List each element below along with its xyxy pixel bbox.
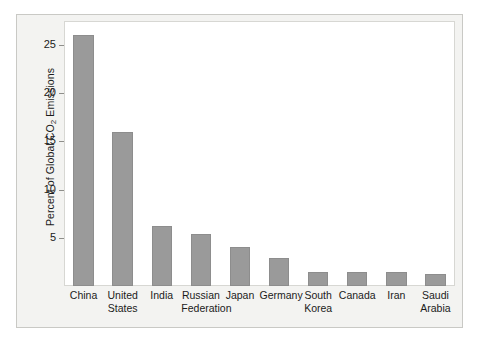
bar-chart: Percent of Global CO2 Emissions 51015202… <box>17 15 464 329</box>
y-axis-title-subscript: 2 <box>49 120 58 125</box>
x-axis-tick-label: United States <box>103 289 142 314</box>
bar <box>191 234 211 286</box>
y-axis-tick-label: 5 <box>50 231 56 243</box>
bar <box>425 274 445 286</box>
bar <box>308 272 328 286</box>
bar <box>386 272 406 286</box>
bar <box>347 272 367 286</box>
x-axis-tick-label: Russian Federation <box>181 289 220 314</box>
x-axis-tick-label: Saudi Arabia <box>416 289 455 314</box>
figure-frame: Percent of Global CO2 Emissions 51015202… <box>16 14 463 328</box>
y-axis-tick-label: 15 <box>44 134 56 146</box>
bar <box>73 35 93 286</box>
y-axis-tick-label: 20 <box>44 86 56 98</box>
x-axis-labels: ChinaUnited StatesIndiaRussian Federatio… <box>64 289 455 329</box>
bars-container <box>64 21 455 286</box>
bar <box>152 226 172 286</box>
x-axis-tick-label: Canada <box>338 289 377 302</box>
bar <box>112 132 132 286</box>
bar <box>230 247 250 286</box>
x-axis-tick-label: China <box>64 289 103 302</box>
y-axis-tick-label: 25 <box>44 38 56 50</box>
x-axis-tick-label: South Korea <box>299 289 338 314</box>
y-axis-tick-label: 10 <box>44 183 56 195</box>
x-axis-tick-label: Iran <box>377 289 416 302</box>
x-axis-tick-label: Japan <box>220 289 259 302</box>
bar <box>269 258 289 286</box>
y-axis-title: Percent of Global CO2 Emissions <box>44 52 56 242</box>
y-axis: Percent of Global CO2 Emissions 51015202… <box>17 15 64 286</box>
x-axis-tick-label: Germany <box>260 289 299 302</box>
x-axis-tick-label: India <box>142 289 181 302</box>
